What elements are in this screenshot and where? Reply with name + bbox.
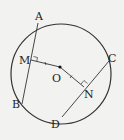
center-point-o [58,65,61,68]
label-d: D [51,118,60,131]
right-angle-marker-n [81,81,88,85]
label-o: O [52,72,61,85]
segment-on [60,67,84,87]
label-a: A [34,10,44,23]
circle-chord-diagram: A B C D M O N [0,0,124,140]
label-m: M [19,54,30,67]
label-c: C [108,52,116,65]
label-n: N [84,88,94,101]
tick-mark-om [45,62,46,65]
label-b: B [12,98,20,111]
